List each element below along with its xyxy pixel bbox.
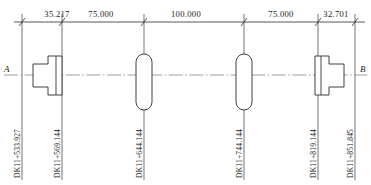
left-abutment-outline: [33, 56, 62, 95]
station-label-4: DK11+744.144: [235, 129, 244, 178]
dimension-labels: 35.217 75.000 100.000 75.000 32.701: [44, 9, 348, 19]
station-label-2: DK11+569.144: [53, 129, 62, 178]
pier-2-structure: [236, 54, 252, 110]
station-label-5: DK11+819.144: [309, 129, 318, 178]
dimension-label-1: 35.217: [44, 9, 70, 19]
axis-label-a: A: [3, 64, 10, 74]
dimension-label-3: 100.000: [171, 9, 201, 19]
station-extension-lines: [22, 14, 355, 180]
pier-1-structure: [136, 54, 152, 110]
station-labels: DK11+533.927 DK11+569.144 DK11+644.144 D…: [13, 129, 355, 178]
axis-label-b: B: [360, 64, 366, 74]
dimension-line-group: [14, 18, 365, 26]
station-label-6: DK11+851.845: [346, 129, 355, 178]
right-abutment-structure: [315, 56, 344, 95]
station-label-1: DK11+533.927: [13, 129, 22, 178]
station-label-3: DK11+644.144: [135, 129, 144, 178]
dimension-label-5: 32.701: [323, 9, 348, 19]
dimension-label-2: 75.000: [88, 9, 113, 19]
pier-2-outline: [236, 54, 252, 110]
drawing-canvas: 35.217 75.000 100.000 75.000 32.701 A B: [0, 0, 371, 185]
dimension-label-4: 75.000: [268, 9, 293, 19]
pier-1-outline: [136, 54, 152, 110]
bridge-elevation-drawing: 35.217 75.000 100.000 75.000 32.701 A B: [0, 0, 371, 185]
left-abutment-structure: [33, 56, 62, 95]
right-abutment-outline: [315, 56, 344, 95]
